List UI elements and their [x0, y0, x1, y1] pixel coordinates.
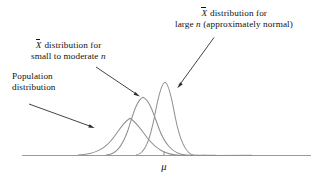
- label-xbar-large-n-line1-rest: distribution for: [208, 8, 267, 18]
- label-xbar-large-n-line2-after: (approximately normal): [201, 19, 293, 29]
- label-xbar-small-n: X distribution for small to moderate n: [31, 40, 106, 63]
- label-xbar-large-n-line1: X distribution for: [175, 8, 293, 19]
- mu-axis-label: μ: [156, 161, 172, 172]
- label-xbar-large-n: X distribution for large n (approximatel…: [175, 8, 293, 31]
- arrow-population: [29, 104, 95, 128]
- label-population-line2: distribution: [12, 82, 56, 93]
- label-xbar-large-n-line2-before: large: [175, 19, 196, 29]
- clt-figure: X distribution for large n (approximatel…: [0, 0, 327, 185]
- arrow-small-n: [96, 67, 140, 97]
- label-xbar-small-n-line2-before: small to moderate: [31, 51, 101, 61]
- x-bar-symbol: X: [201, 8, 208, 19]
- population-distribution-curve: [78, 118, 252, 155]
- x-bar-symbol: X: [35, 40, 42, 51]
- label-xbar-small-n-line2: small to moderate n: [31, 51, 106, 62]
- xbar-small-n-distribution-curve: [106, 97, 216, 155]
- label-xbar-large-n-line2: large n (approximately normal): [175, 19, 293, 30]
- xbar-large-n-distribution-curve: [136, 82, 206, 155]
- label-xbar-small-n-line2-italic: n: [101, 51, 106, 61]
- label-xbar-small-n-line1: X distribution for: [31, 40, 106, 51]
- label-population-distribution: Population distribution: [12, 71, 56, 94]
- label-xbar-small-n-line1-rest: distribution for: [42, 40, 101, 50]
- arrow-large-n: [177, 38, 214, 89]
- label-population-line1: Population: [12, 71, 56, 82]
